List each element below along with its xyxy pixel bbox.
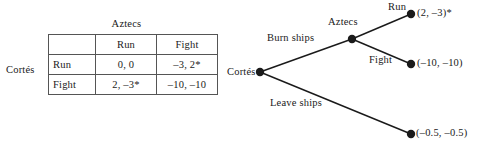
table-row: Run Fight xyxy=(49,35,218,55)
tree-payoff-fight: (–10, –10) xyxy=(417,58,463,69)
node-aztecs xyxy=(348,35,356,43)
matrix-cell-run-run: 0, 0 xyxy=(96,55,157,75)
tree-edge-label-leave-ships: Leave ships xyxy=(270,98,322,109)
normal-form-panel: Aztecs Cortés Run Fight Run 0, 0 –3, 2* … xyxy=(0,0,230,152)
table-row: Fight 2, –3* –10, –10 xyxy=(49,75,218,95)
extensive-form-panel: Cortés Aztecs Burn ships Leave ships Run… xyxy=(230,0,478,152)
matrix-cell-fight-run: 2, –3* xyxy=(96,75,157,95)
tree-node-label-cortes: Cortés xyxy=(227,67,256,78)
matrix-row-player-label: Cortés xyxy=(6,64,46,75)
tree-edge-label-fight: Fight xyxy=(369,55,392,66)
matrix-row-header-fight: Fight xyxy=(49,75,96,95)
payoff-matrix: Run Fight Run 0, 0 –3, 2* Fight 2, –3* –… xyxy=(48,34,218,95)
tree-payoff-run: (2, –3)* xyxy=(417,8,452,19)
tree-edge-label-burn-ships: Burn ships xyxy=(267,33,314,44)
node-cortes xyxy=(256,68,264,76)
matrix-corner-cell xyxy=(49,35,96,55)
node-terminal-leave xyxy=(407,130,415,138)
edge-run xyxy=(352,14,411,39)
matrix-column-header-fight: Fight xyxy=(157,35,218,55)
node-terminal-fight xyxy=(407,60,415,68)
matrix-row-header-run: Run xyxy=(49,55,96,75)
matrix-cell-fight-fight: –10, –10 xyxy=(157,75,218,95)
matrix-column-player-label: Aztecs xyxy=(48,18,205,29)
tree-edge-label-run: Run xyxy=(388,2,406,13)
tree-payoff-leave-ships: (–0.5, –0.5) xyxy=(416,128,467,139)
edge-burn-ships xyxy=(260,39,352,72)
matrix-column-header-run: Run xyxy=(96,35,157,55)
table-row: Run 0, 0 –3, 2* xyxy=(49,55,218,75)
game-theory-figure: Aztecs Cortés Run Fight Run 0, 0 –3, 2* … xyxy=(0,0,478,152)
tree-node-label-aztecs: Aztecs xyxy=(328,17,358,28)
matrix-cell-run-fight: –3, 2* xyxy=(157,55,218,75)
node-terminal-run xyxy=(407,10,415,18)
